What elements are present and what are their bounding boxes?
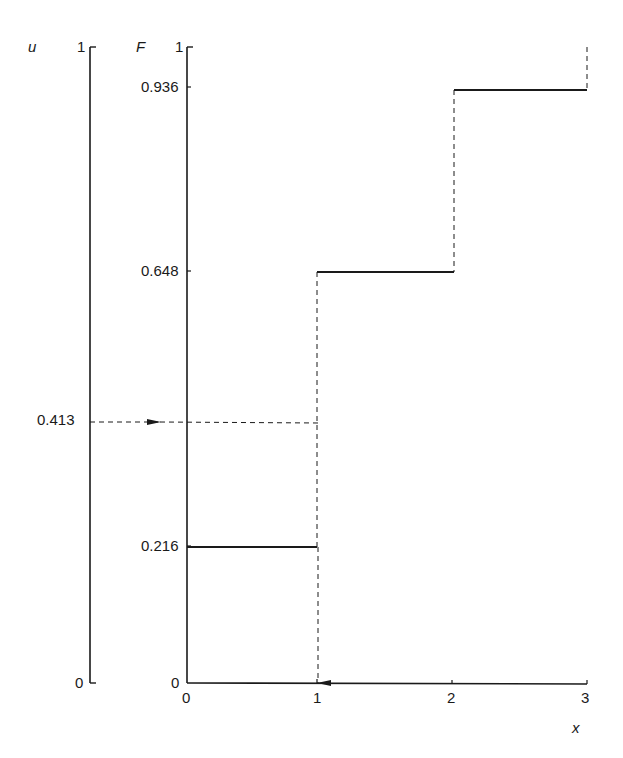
x-tick-3: 3 <box>581 689 589 706</box>
x-tick-0: 0 <box>182 689 190 706</box>
inverse-transform-annotation <box>90 422 319 683</box>
u-tick-1: 1 <box>77 38 85 55</box>
F-axis: F 1 0.936 0.648 0.413 0.216 0 <box>37 38 193 691</box>
F-axis-label: F <box>136 38 146 55</box>
F-tick-0: 0 <box>171 674 179 691</box>
F-tick-0648: 0.648 <box>141 262 179 279</box>
step-function <box>187 47 587 547</box>
u-tick-0: 0 <box>75 674 83 691</box>
u-axis-label: u <box>28 38 37 55</box>
x-axis-label: x <box>571 719 580 736</box>
u-axis: u 1 0 <box>28 38 96 691</box>
u-value-0413: 0.413 <box>37 411 75 428</box>
step-cdf-diagram: u 1 0 F 1 0.936 0.648 0.413 0.216 0 0 1 … <box>0 0 623 758</box>
x-axis: 0 1 2 3 x <box>182 679 589 736</box>
F-tick-0216: 0.216 <box>141 537 179 554</box>
F-tick-0936: 0.936 <box>141 78 179 95</box>
x-tick-2: 2 <box>447 689 455 706</box>
x-tick-1: 1 <box>313 689 321 706</box>
F-tick-1: 1 <box>175 38 183 55</box>
